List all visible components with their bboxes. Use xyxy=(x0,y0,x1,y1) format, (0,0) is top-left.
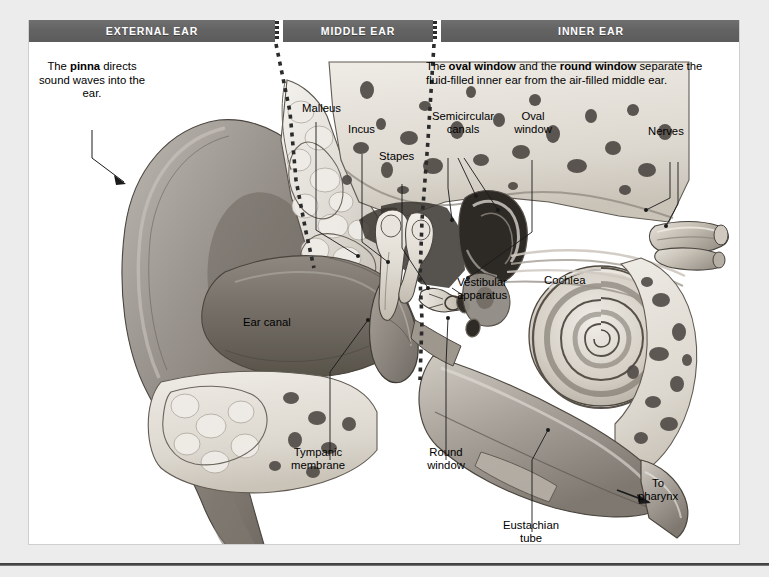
note-pinna-prefix: The xyxy=(47,60,70,72)
label-stapes: Stapes xyxy=(379,150,414,163)
note-windows-seg1: The xyxy=(426,60,449,72)
note-pinna-bold: pinna xyxy=(70,60,100,72)
label-malleus: Malleus xyxy=(302,102,341,115)
banner-inner-ear: INNER EAR xyxy=(441,20,740,42)
banner-divider-2 xyxy=(433,20,438,42)
page-root: EXTERNAL EAR MIDDLE EAR INNER EAR xyxy=(0,0,769,577)
region-banner: EXTERNAL EAR MIDDLE EAR INNER EAR xyxy=(29,20,740,42)
note-pinna: The pinna directs sound waves into the e… xyxy=(32,60,152,101)
note-windows-bold1: oval window xyxy=(449,60,516,72)
label-round-window: Round window xyxy=(418,446,474,472)
nerves-bundle xyxy=(649,222,728,271)
label-cochlea: Cochlea xyxy=(544,274,585,287)
banner-divider-1 xyxy=(275,20,280,42)
label-tympanic-membrane: Tympanic membrane xyxy=(282,446,354,472)
label-vestibular-apparatus: Vestibular apparatus xyxy=(445,276,519,302)
banner-external-ear: EXTERNAL EAR xyxy=(29,20,275,42)
temporal-bone-lower xyxy=(148,371,377,493)
page-bottom-rule xyxy=(0,563,769,566)
label-to-pharynx: To pharynx xyxy=(630,477,686,503)
label-semicircular-canals: Semicircular canals xyxy=(423,110,503,136)
label-nerves: Nerves xyxy=(648,125,684,138)
note-windows-seg2: and the xyxy=(516,60,560,72)
note-oval-round-window: The oval window and the round window sep… xyxy=(426,60,706,87)
note-windows-bold2: round window xyxy=(560,60,637,72)
label-eustachian-tube: Eustachian tube xyxy=(497,519,565,545)
banner-middle-ear: MIDDLE EAR xyxy=(283,20,433,42)
label-ear-canal: Ear canal xyxy=(243,316,291,329)
label-incus: Incus xyxy=(348,123,375,136)
label-oval-window: Oval window xyxy=(505,110,561,136)
